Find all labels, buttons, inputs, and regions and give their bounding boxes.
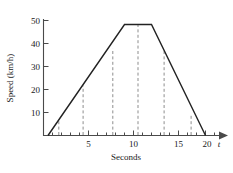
dashed-ordinate-lines [59, 25, 191, 136]
x-tick-label-20: 20 [203, 139, 213, 149]
x-tick-label-15: 15 [174, 139, 184, 149]
y-tick-label-50: 50 [31, 16, 41, 26]
x-axis-title: Seconds [111, 152, 141, 162]
y-tick-label-30: 30 [31, 62, 41, 72]
y-axis-ticks [44, 21, 49, 113]
x-tick-label-10: 10 [129, 139, 139, 149]
x-axis-variable-symbol: t [218, 139, 221, 149]
y-tick-label-40: 40 [31, 39, 41, 49]
speed-time-chart: 50 40 30 20 10 [0, 0, 233, 173]
y-tick-label-10: 10 [31, 108, 41, 118]
speed-curve [48, 25, 206, 136]
y-axis-tick-labels: 50 40 30 20 10 [31, 16, 41, 118]
y-tick-label-20: 20 [31, 85, 41, 95]
x-tick-label-5: 5 [86, 139, 91, 149]
y-axis-title: Speed (km/h) [5, 54, 15, 103]
x-axis-tick-labels: 5 10 15 20 [86, 139, 212, 149]
chart-canvas: 50 40 30 20 10 [0, 0, 233, 173]
x-axis-arrow-icon [219, 132, 228, 140]
